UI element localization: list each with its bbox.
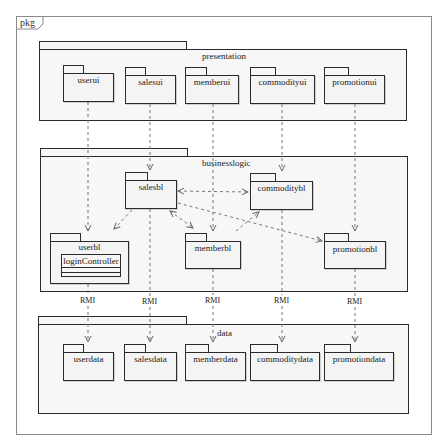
package-diagram: pkg presentation userui salesui memberui… — [0, 0, 443, 448]
commoditybl-label: commoditybl — [250, 183, 313, 193]
pkg-frame-label: pkg — [20, 17, 35, 28]
login-controller-attributes — [62, 268, 120, 273]
rmi-label-user: RMI — [80, 296, 95, 305]
login-controller-class-name: loginController — [62, 255, 120, 268]
data-package-label: data — [217, 328, 232, 338]
presentation-package-label: presentation — [202, 51, 246, 61]
commoditydata-label: commoditydata — [250, 354, 320, 364]
promotionbl-label: promotionbl — [324, 244, 386, 254]
userdata-label: userdata — [63, 354, 114, 364]
rmi-label-member: RMI — [205, 296, 220, 305]
login-controller-class[interactable]: loginController — [61, 254, 121, 277]
memberdata-label: memberdata — [185, 354, 246, 364]
salesui-label: salesui — [125, 77, 176, 87]
salesdata-label: salesdata — [124, 354, 177, 364]
promotiondata-label: promotiondata — [324, 354, 394, 364]
commodityui-label: commodityui — [250, 77, 315, 87]
rmi-label-sales: RMI — [142, 297, 157, 306]
salesbl-label: salesbl — [125, 182, 177, 192]
rmi-label-promotion: RMI — [347, 297, 362, 306]
memberui-label: memberui — [185, 77, 239, 87]
userbl-label: userbl — [50, 242, 129, 252]
promotionui-label: promotionui — [324, 77, 385, 87]
businesslogic-package-label: businesslogic — [202, 158, 251, 168]
rmi-label-commodity: RMI — [274, 296, 289, 305]
userui-label: userui — [63, 75, 114, 85]
memberbl-label: memberbl — [185, 243, 241, 253]
